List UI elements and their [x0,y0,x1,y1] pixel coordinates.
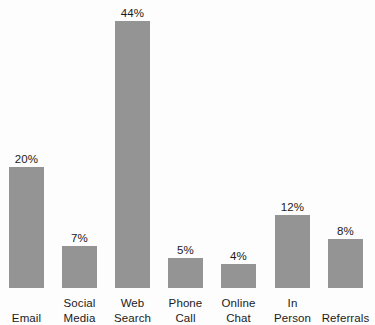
bar-value-label: 20% [0,153,53,166]
bar-value-label: 12% [266,201,319,214]
bar-category-label-line: Call [156,311,215,325]
bar-rect[interactable] [221,264,256,288]
bar-category-label-line: In [263,296,322,311]
bar-rect[interactable] [62,246,97,288]
plot-area: 20% Email 7% Social Media 44% Web Search… [0,0,375,325]
bar-value-label: 44% [106,7,159,20]
bar-category-label-line: Online [209,296,268,311]
bar-category-label-line: Phone [156,296,215,311]
bar-value-label: 8% [319,225,372,238]
bar-category-label-line: Media [50,311,109,325]
bar-category-label-line: Email [0,311,56,325]
bar-value-label: 4% [212,250,265,263]
bar-category-label: Referrals [316,311,375,325]
bar-rect[interactable] [168,258,203,288]
bar-rect[interactable] [328,239,363,288]
bar-category-label: In Person [263,296,322,325]
bar-value-label: 7% [53,232,106,245]
bar-category-label-line: Person [263,311,322,325]
bar-category-label-line: Social [50,296,109,311]
bar-category-label: Social Media [50,296,109,325]
bar-category-label-line: Referrals [316,311,375,325]
bar-category-label: Online Chat [209,296,268,325]
bar-category-label: Phone Call [156,296,215,325]
bar-category-label-line: Chat [209,311,268,325]
bar-chart: 20% Email 7% Social Media 44% Web Search… [0,0,375,325]
bar-value-label: 5% [159,244,212,257]
bar-category-label-line: Web [103,296,162,311]
bar-category-label-line: Search [103,311,162,325]
bar-category-label: Web Search [103,296,162,325]
bar-rect[interactable] [275,215,310,288]
bar-rect[interactable] [115,21,150,288]
bar-category-label: Email [0,311,56,325]
bar-rect[interactable] [9,167,44,288]
